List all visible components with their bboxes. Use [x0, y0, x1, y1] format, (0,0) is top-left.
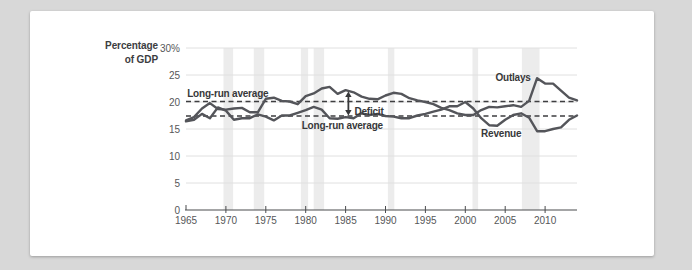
x-tick-label: 2000: [454, 215, 477, 226]
revenue-label: Revenue: [481, 128, 522, 139]
y-tick-label: 0: [174, 205, 180, 216]
x-tick-label: 1990: [374, 215, 397, 226]
outlays-label: Outlays: [495, 72, 531, 83]
y-tick-label: 15: [169, 124, 181, 135]
deficit-arrow-head-down: [345, 110, 351, 116]
deficit-arrow: [345, 91, 351, 115]
chart-card: Percentage of GDP 1965197019751980198519…: [30, 11, 654, 256]
revenue-average-label: Long-run average: [302, 120, 384, 131]
y-tick-label: 30%: [160, 43, 180, 54]
deficit-label: Deficit: [354, 106, 384, 117]
x-tick-label: 2010: [534, 215, 557, 226]
x-tick-label: 1975: [255, 215, 278, 226]
y-tick-label: 20: [169, 97, 181, 108]
y-tick-label: 5: [174, 178, 180, 189]
page-background: { "page": { "background_color": "#d8d8d8…: [0, 0, 692, 270]
x-tick-label: 2005: [494, 215, 517, 226]
y-tick-label: 10: [169, 151, 181, 162]
y-tick-label: 25: [169, 70, 181, 81]
x-tick-label: 1995: [414, 215, 437, 226]
x-tick-label: 1985: [334, 215, 357, 226]
x-tick-label: 1965: [175, 215, 198, 226]
outlays-average-label: Long-run average: [187, 88, 269, 99]
budget-line-chart: 1965197019751980198519901995200020052010…: [30, 11, 654, 256]
x-tick-label: 1980: [295, 215, 318, 226]
x-tick-label: 1970: [215, 215, 238, 226]
